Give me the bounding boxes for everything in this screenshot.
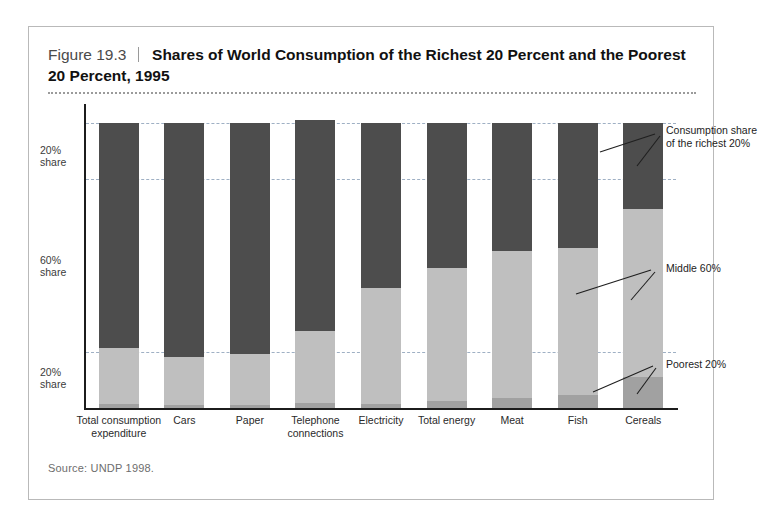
x-label-cereals: Cereals xyxy=(600,414,686,427)
bar-segment-poorest-20 xyxy=(492,398,532,408)
y-tick-richest-line1: 20% xyxy=(40,144,61,156)
y-tick-poorest-line1: 20% xyxy=(40,366,61,378)
bar-segment-middle-60 xyxy=(99,348,139,404)
bar-segment-middle-60 xyxy=(164,357,204,405)
y-tick-poorest-line2: share xyxy=(40,378,66,390)
y-tick-richest-line2: share xyxy=(40,156,66,168)
bar-segment-consumption-share-of-the-richest-20 xyxy=(492,123,532,251)
bar-segment-poorest-20 xyxy=(623,377,663,408)
y-tick-poorest: 20% share xyxy=(40,366,80,390)
figure-title-part-2: 20 Percent, 1995 xyxy=(48,65,698,86)
callout-middle: Middle 60% xyxy=(666,262,762,275)
bar-segment-consumption-share-of-the-richest-20 xyxy=(558,123,598,248)
bar-segment-middle-60 xyxy=(361,288,401,403)
chart-plot-area: 20% share 60% share 20% share Total cons… xyxy=(48,104,698,424)
bar-segment-consumption-share-of-the-richest-20 xyxy=(623,123,663,209)
bar-segment-consumption-share-of-the-richest-20 xyxy=(164,123,204,357)
bar-cars[interactable] xyxy=(164,123,204,408)
bar-segment-consumption-share-of-the-richest-20 xyxy=(230,123,270,354)
bar-telephone-connections[interactable] xyxy=(295,123,335,408)
bar-paper[interactable] xyxy=(230,123,270,408)
bar-segment-poorest-20 xyxy=(361,404,401,408)
y-tick-richest: 20% share xyxy=(40,144,80,168)
bars-layer xyxy=(86,104,676,408)
bar-segment-consumption-share-of-the-richest-20 xyxy=(361,123,401,288)
bar-segment-poorest-20 xyxy=(99,404,139,408)
figure-title-part-1: Shares of World Consumption of the Riche… xyxy=(152,46,686,63)
bar-segment-poorest-20 xyxy=(295,403,335,408)
x-axis-labels: Total consumption expenditureCarsPaperTe… xyxy=(86,414,676,470)
y-tick-middle-line1: 60% xyxy=(40,254,61,266)
bar-segment-middle-60 xyxy=(230,354,270,405)
bar-segment-middle-60 xyxy=(427,268,467,401)
header-dotted-separator xyxy=(48,92,696,94)
bar-electricity[interactable] xyxy=(361,123,401,408)
x-axis-line xyxy=(84,408,678,410)
bar-meat[interactable] xyxy=(492,123,532,408)
bar-segment-poorest-20 xyxy=(427,401,467,408)
bar-segment-poorest-20 xyxy=(230,405,270,408)
bar-segment-middle-60 xyxy=(558,248,598,395)
figure-title-line-1: Figure 19.3 Shares of World Consumption … xyxy=(48,44,698,65)
title-divider xyxy=(138,47,139,62)
callout-poorest: Poorest 20% xyxy=(666,358,762,371)
figure-number: Figure 19.3 xyxy=(48,46,126,63)
bar-segment-middle-60 xyxy=(295,331,335,403)
bar-segment-poorest-20 xyxy=(558,395,598,408)
y-tick-middle-line2: share xyxy=(40,266,66,278)
bar-total-consumption-expenditure[interactable] xyxy=(99,123,139,408)
source-note: Source: UNDP 1998. xyxy=(48,462,154,474)
bar-fish[interactable] xyxy=(558,123,598,408)
bar-segment-consumption-share-of-the-richest-20 xyxy=(427,123,467,268)
figure-header: Figure 19.3 Shares of World Consumption … xyxy=(48,44,698,86)
bar-segment-middle-60 xyxy=(623,209,663,377)
bar-segment-consumption-share-of-the-richest-20 xyxy=(295,120,335,331)
bar-segment-poorest-20 xyxy=(164,405,204,408)
bar-cereals[interactable] xyxy=(623,123,663,408)
bar-segment-consumption-share-of-the-richest-20 xyxy=(99,123,139,348)
y-tick-middle: 60% share xyxy=(40,254,80,278)
callout-richest: Consumption share of the richest 20% xyxy=(666,124,762,150)
bar-segment-middle-60 xyxy=(492,251,532,398)
bar-total-energy[interactable] xyxy=(427,123,467,408)
